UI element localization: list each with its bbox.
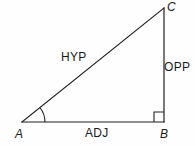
side-hypotenuse-line xyxy=(22,8,164,122)
diagram-canvas: HYP OPP ADJ A B C xyxy=(0,0,195,146)
angle-arc-at-a xyxy=(40,108,45,122)
vertex-label-b: B xyxy=(160,128,168,140)
label-opposite: OPP xyxy=(164,61,190,73)
vertex-label-c: C xyxy=(167,1,176,13)
label-adjacent: ADJ xyxy=(85,127,109,139)
label-hypotenuse: HYP xyxy=(61,51,87,63)
right-angle-marker-at-b xyxy=(154,112,164,122)
vertex-label-a: A xyxy=(15,128,23,140)
